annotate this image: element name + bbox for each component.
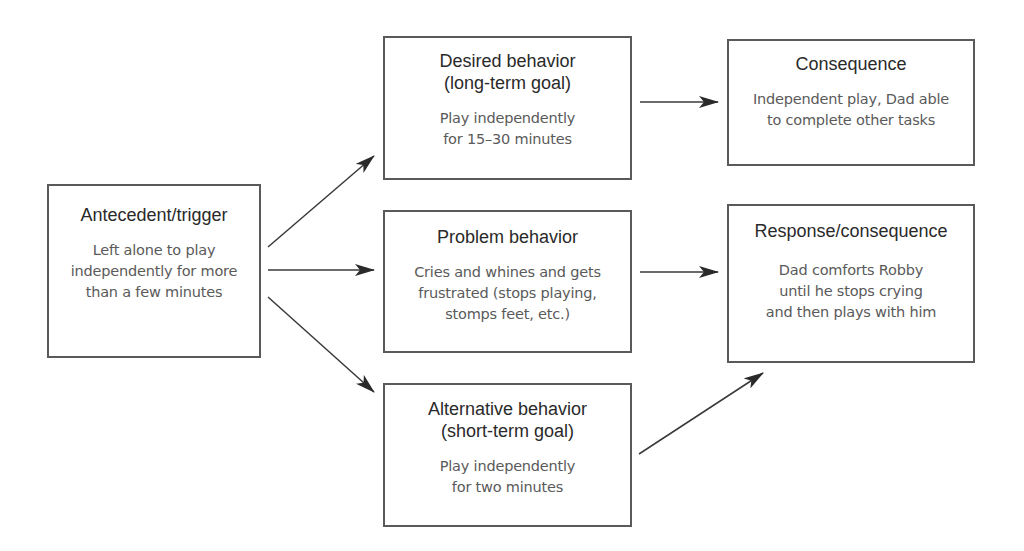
desired-behavior-title: Desired behavior (long-term goal): [385, 50, 630, 94]
arrow-antecedent-to-alternative: [268, 297, 374, 392]
arrow-alternative-to-response: [639, 373, 763, 454]
desired-behavior-box: Desired behavior (long-term goal) Play i…: [383, 36, 632, 180]
desired-behavior-body: Play independently for 15–30 minutes: [385, 108, 630, 150]
consequence-title: Consequence: [729, 53, 973, 75]
arrow-antecedent-to-desired: [268, 156, 374, 247]
antecedent-title: Antecedent/trigger: [49, 204, 259, 226]
consequence-body: Independent play, Dad able to complete o…: [729, 89, 973, 131]
problem-behavior-title: Problem behavior: [385, 226, 630, 248]
problem-behavior-box: Problem behavior Cries and whines and ge…: [383, 210, 632, 353]
antecedent-box: Antecedent/trigger Left alone to play in…: [47, 184, 261, 358]
response-consequence-box: Response/consequence Dad comforts Robby …: [727, 204, 975, 363]
response-consequence-body: Dad comforts Robby until he stops crying…: [729, 260, 973, 323]
alternative-behavior-title: Alternative behavior (short-term goal): [385, 398, 630, 442]
alternative-behavior-box: Alternative behavior (short-term goal) P…: [383, 383, 632, 527]
problem-behavior-body: Cries and whines and gets frustrated (st…: [385, 262, 630, 325]
antecedent-body: Left alone to play independently for mor…: [49, 240, 259, 303]
alternative-behavior-body: Play independently for two minutes: [385, 456, 630, 498]
response-consequence-title: Response/consequence: [729, 220, 973, 242]
consequence-box: Consequence Independent play, Dad able t…: [727, 39, 975, 166]
